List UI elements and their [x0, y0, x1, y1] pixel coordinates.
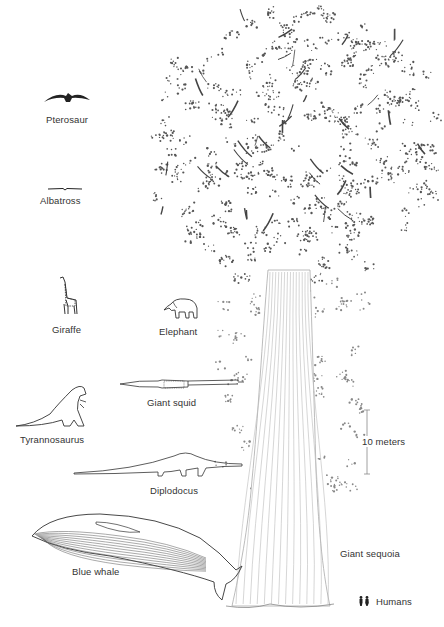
- branch: [370, 187, 371, 198]
- foliage-cluster: [160, 116, 170, 126]
- foliage-cluster: [219, 255, 228, 265]
- foliage-cluster: [269, 74, 277, 84]
- tyrannosaurus-figure: [14, 384, 92, 428]
- foliage-cluster: [203, 243, 215, 252]
- foliage-cluster: [348, 37, 359, 47]
- branch: [240, 9, 245, 21]
- blue-whale-icon: [30, 508, 244, 602]
- foliage-cluster: [256, 52, 266, 63]
- pterosaur-label: Pterosaur: [46, 114, 88, 125]
- foliage-cluster: [225, 137, 236, 147]
- foliage-cluster: [370, 139, 379, 150]
- foliage-cluster: [166, 75, 179, 84]
- foliage-cluster: [340, 142, 351, 150]
- foliage-cluster: [321, 260, 331, 269]
- foliage-cluster: [326, 278, 339, 289]
- foliage-cluster: [233, 273, 242, 284]
- foliage-cluster: [220, 221, 228, 228]
- branch: [342, 35, 348, 44]
- giant-squid-icon: [120, 377, 244, 391]
- foliage-cluster: [336, 370, 349, 381]
- branch: [278, 53, 291, 59]
- foliage-cluster: [315, 307, 325, 318]
- foliage-cluster: [304, 39, 315, 46]
- foliage-cluster: [208, 103, 219, 112]
- albatross-icon: [48, 186, 82, 192]
- humans-label: Humans: [376, 596, 412, 607]
- blue-whale-figure: [30, 508, 244, 602]
- foliage-cluster: [179, 135, 191, 145]
- humans-icon: [358, 596, 370, 606]
- foliage-cluster: [154, 163, 163, 171]
- foliage-cluster: [151, 134, 162, 143]
- foliage-cluster: [351, 250, 358, 261]
- giraffe-icon: [58, 276, 82, 318]
- foliage-cluster: [296, 66, 308, 76]
- foliage-cluster: [182, 66, 193, 71]
- foliage-cluster: [276, 46, 289, 57]
- foliage-cluster: [291, 145, 300, 151]
- foliage-cluster: [211, 215, 221, 225]
- foliage-cluster: [250, 304, 260, 314]
- foliage-cluster: [322, 105, 334, 113]
- branch: [390, 40, 403, 56]
- foliage-cluster: [254, 228, 267, 238]
- foliage-cluster: [310, 273, 324, 284]
- foliage-cluster: [247, 254, 256, 262]
- foliage-cluster: [424, 144, 437, 155]
- elephant-label: Elephant: [159, 326, 197, 337]
- foliage-cluster: [217, 330, 223, 338]
- foliage-cluster: [244, 242, 257, 253]
- giraffe-label: Giraffe: [52, 324, 81, 335]
- foliage-cluster: [314, 356, 326, 367]
- foliage-cluster: [408, 184, 419, 194]
- foliage-cluster: [207, 83, 219, 89]
- foliage-cluster: [397, 166, 410, 176]
- blue-whale-label: Blue whale: [72, 566, 119, 577]
- foliage-cluster: [310, 78, 319, 84]
- foliage-cluster: [316, 390, 325, 397]
- foliage-cluster: [381, 166, 393, 174]
- foliage-cluster: [347, 125, 359, 135]
- foliage-cluster: [203, 56, 212, 66]
- foliage-cluster: [217, 301, 230, 311]
- foliage-cluster: [220, 118, 232, 129]
- foliage-cluster: [346, 232, 353, 240]
- foliage-cluster: [166, 148, 176, 157]
- foliage-cluster: [401, 61, 414, 73]
- diplodocus-icon: [74, 446, 244, 480]
- branch: [310, 159, 323, 174]
- foliage-cluster: [290, 196, 300, 205]
- foliage-cluster: [303, 204, 312, 214]
- foliage-cluster: [215, 104, 228, 112]
- foliage-cluster: [318, 456, 326, 460]
- foliage-cluster: [424, 163, 435, 170]
- foliage-cluster: [292, 20, 296, 32]
- foliage-cluster: [231, 89, 241, 96]
- foliage-cluster: [246, 118, 259, 124]
- foliage-cluster: [184, 233, 192, 244]
- foliage-cluster: [170, 57, 179, 68]
- foliage-cluster: [293, 80, 302, 91]
- foliage-cluster: [248, 171, 256, 180]
- foliage-cluster: [376, 156, 388, 165]
- foliage-cluster: [363, 65, 374, 76]
- foliage-cluster: [279, 22, 288, 30]
- foliage-cluster: [193, 231, 204, 239]
- foliage-cluster: [287, 38, 298, 44]
- foliage-cluster: [266, 40, 278, 49]
- foliage-cluster: [304, 180, 315, 188]
- foliage-cluster: [339, 481, 348, 487]
- foliage-cluster: [279, 106, 285, 117]
- foliage-cluster: [340, 422, 351, 430]
- foliage-cluster: [246, 134, 257, 145]
- foliage-cluster: [409, 67, 415, 77]
- foliage-cluster: [217, 48, 224, 56]
- foliage-cluster: [246, 60, 256, 68]
- foliage-cluster: [181, 208, 191, 217]
- foliage-cluster: [215, 360, 226, 370]
- foliage-cluster: [377, 41, 387, 47]
- foliage-cluster: [307, 45, 318, 51]
- foliage-cluster: [161, 91, 168, 101]
- foliage-cluster: [376, 122, 386, 132]
